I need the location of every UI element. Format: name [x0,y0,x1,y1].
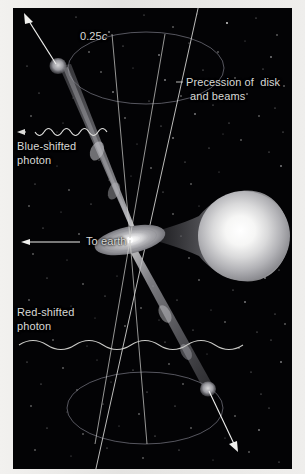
velocity-arrow-lower [209,391,238,452]
precession-label-line1: Precession of disk [186,76,280,89]
blueshift-label-line1: Blue-shifted [17,140,76,153]
speed-value: 0.25 [80,30,102,42]
precession-label-line2: and beams [190,90,245,103]
lower-jet-blob [200,382,216,397]
velocity-arrow-upper [24,13,56,64]
speed-unit: c [102,30,108,42]
to-earth-label: To earth [86,235,127,248]
upper-jet-blob [50,58,67,74]
redshift-label-line1: Red-shifted [17,306,74,319]
redshift-label-line2: photon [17,320,51,333]
to-earth-arrow [21,239,80,245]
redshift-wave [19,341,243,350]
astronomy-diagram: 0.25c Precession of disk and beams Blue-… [13,8,292,469]
speed-label: 0.25c [61,17,107,56]
lower-precession-ellipse [67,372,223,444]
figure-page: 0.25c Precession of disk and beams Blue-… [0,0,305,474]
blueshift-label-line2: photon [17,154,51,167]
